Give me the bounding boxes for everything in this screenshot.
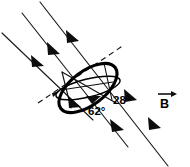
field-arrowhead xyxy=(148,117,161,130)
angle-28-label: 28° xyxy=(113,94,131,106)
angle-62-label: 62° xyxy=(88,105,106,117)
field-arrowhead xyxy=(110,119,124,132)
field-line-3 xyxy=(40,2,168,166)
physics-figure: 28° 62° B xyxy=(0,0,190,167)
field-arrowhead xyxy=(47,42,60,55)
vector-overbar-arrowhead xyxy=(171,91,177,97)
magnetic-field-label: B xyxy=(160,97,169,111)
figure-canvas: 28° 62° B xyxy=(0,0,190,167)
magnetic-field-label-group: B xyxy=(158,91,177,111)
field-arrowhead xyxy=(31,55,44,67)
field-arrowhead xyxy=(66,30,79,43)
magnetic-field-lines xyxy=(2,2,168,166)
